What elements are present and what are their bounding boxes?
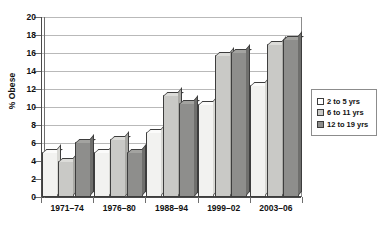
bar-side-face: [298, 31, 302, 196]
y-tick-label: 18: [0, 31, 36, 40]
y-tick-label: 20: [0, 13, 36, 22]
y-tick-label: 0: [0, 193, 36, 202]
legend-item[interactable]: 12 to 19 yrs: [317, 120, 372, 129]
y-tick-label: 2: [0, 175, 36, 184]
bar: [94, 152, 110, 197]
legend-item-label: 2 to 5 yrs: [327, 97, 360, 106]
bar: [42, 152, 58, 197]
gridline: [42, 53, 301, 54]
bar: [215, 55, 231, 197]
bar: [179, 103, 195, 198]
legend-item[interactable]: 2 to 5 yrs: [317, 97, 372, 106]
bar-chart: % Obese 02468101214161820 1971–741976–80…: [0, 0, 385, 228]
bar: [267, 44, 283, 197]
x-axis-category-label: 2003–06: [241, 203, 311, 213]
legend-item-label: 12 to 19 yrs: [327, 120, 368, 129]
y-tick-label: 16: [0, 49, 36, 58]
legend-swatch-icon: [317, 98, 324, 105]
legend-item[interactable]: 6 to 11 yrs: [317, 108, 372, 117]
bar: [283, 39, 299, 197]
y-tick-label: 12: [0, 85, 36, 94]
y-tick-label: 4: [0, 157, 36, 166]
y-tick-label: 10: [0, 103, 36, 112]
legend-swatch-icon: [317, 109, 324, 116]
gridline: [42, 17, 301, 18]
bar: [146, 132, 162, 197]
bar: [110, 139, 126, 198]
bar: [198, 104, 214, 197]
y-tick-label: 6: [0, 139, 36, 148]
gridline: [42, 71, 301, 72]
gridline: [42, 197, 301, 198]
y-tick-label: 14: [0, 67, 36, 76]
x-tick-mark: [41, 197, 42, 203]
y-tick-label: 8: [0, 121, 36, 130]
bar: [163, 95, 179, 197]
bar: [75, 142, 91, 197]
bar: [127, 152, 143, 197]
chart-legend: 2 to 5 yrs6 to 11 yrs12 to 19 yrs: [311, 89, 377, 136]
legend-swatch-icon: [317, 121, 324, 128]
legend-item-label: 6 to 11 yrs: [327, 108, 364, 117]
gridline: [42, 35, 301, 36]
bar: [58, 161, 74, 197]
bar: [250, 85, 266, 197]
bar: [231, 52, 247, 197]
